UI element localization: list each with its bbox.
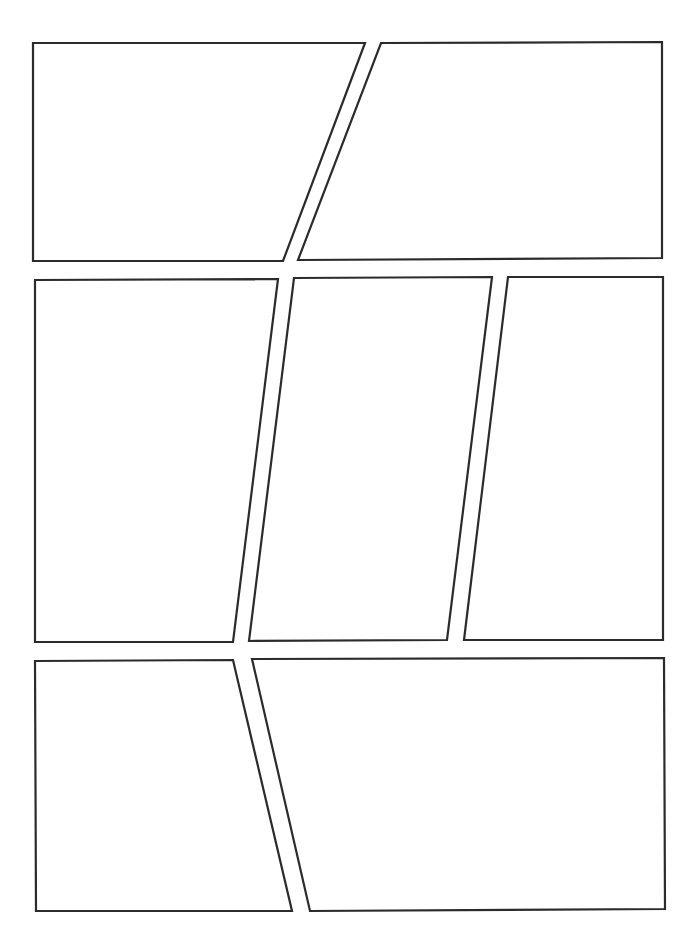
comic-panel-3 (35, 279, 278, 642)
comic-page-layout (0, 0, 698, 949)
row-1 (33, 42, 662, 261)
row-2 (35, 277, 663, 642)
panel-grid (0, 0, 698, 949)
comic-panel-7 (252, 658, 665, 911)
comic-panel-5 (464, 277, 663, 640)
comic-panel-6 (35, 660, 292, 911)
comic-panel-4 (249, 277, 492, 641)
row-3 (35, 658, 665, 911)
